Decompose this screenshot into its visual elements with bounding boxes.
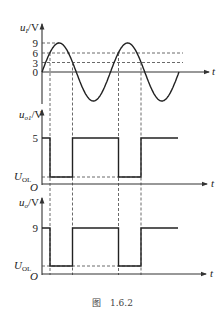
output-y-axis-label: uo/V [19,196,39,210]
tick-label-0: 0 [33,66,39,78]
output-waveform-panel: uo/V t 9 UOL O [14,196,214,282]
input-t-label: t [212,65,216,77]
output1-y-axis-label: uo1/V [19,108,43,122]
waveform-figure: uI/V t 9 6 3 0 uo1/V t 5 UOL O uo/V t 9 … [0,0,224,316]
output1-waveform-panel: uo1/V t 5 UOL O [14,108,215,193]
output1-origin-label: O [30,181,38,193]
caption-prefix: 图 [92,298,101,308]
output-t-label: t [210,267,214,279]
figure-caption: 图 1.6.2 [92,298,133,308]
input-waveform-panel: uI/V t 9 6 3 0 [20,21,216,104]
input-y-axis-label: uI/V [20,21,39,35]
output1-square-wave [42,138,178,177]
caption-number: 1.6.2 [110,298,133,308]
output1-high-label: 5 [33,132,39,144]
transition-guides [50,53,141,275]
output-origin-label: O [30,270,38,282]
output-square-wave [42,228,178,266]
output-high-label: 9 [33,222,39,234]
output-low-label: UOL [14,259,31,273]
output1-t-label: t [211,177,215,189]
output1-low-label: UOL [14,170,31,184]
